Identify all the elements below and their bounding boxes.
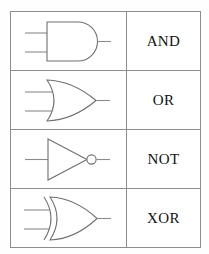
and-gate-symbol bbox=[11, 12, 126, 70]
table-row: OR bbox=[11, 71, 201, 130]
table-row: NOT bbox=[11, 130, 201, 189]
logic-gates-figure: AND OR bbox=[0, 0, 209, 254]
xor-gate-label: XOR bbox=[127, 189, 201, 248]
not-gate-bubble-icon bbox=[87, 155, 96, 164]
xor-gate-cell bbox=[11, 189, 127, 248]
table-row: AND bbox=[11, 12, 201, 71]
and-gate-cell bbox=[11, 12, 127, 71]
table-row: XOR bbox=[11, 189, 201, 248]
logic-gates-table: AND OR bbox=[10, 11, 201, 248]
or-gate-label: OR bbox=[127, 71, 201, 130]
not-gate-cell bbox=[11, 130, 127, 189]
not-gate-symbol bbox=[11, 130, 126, 188]
or-gate-symbol bbox=[11, 71, 126, 129]
xor-gate-symbol bbox=[11, 189, 126, 247]
or-gate-cell bbox=[11, 71, 127, 130]
and-gate-label: AND bbox=[127, 12, 201, 71]
not-gate-label: NOT bbox=[127, 130, 201, 189]
